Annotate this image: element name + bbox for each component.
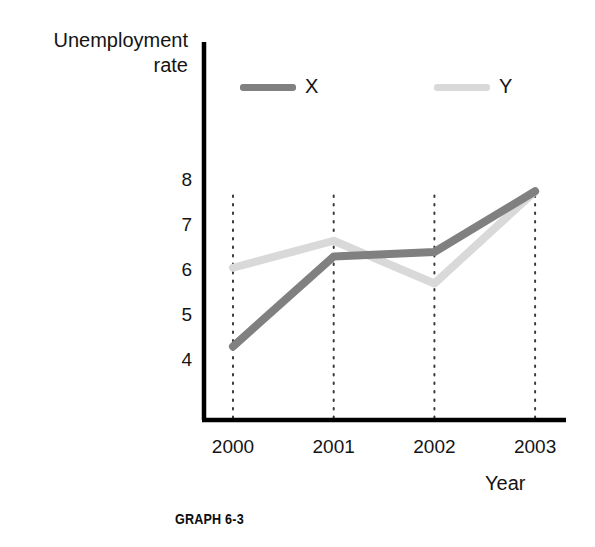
x-tick-2002: 2002: [399, 437, 469, 456]
series-line-y: [233, 191, 535, 283]
x-tick-2000: 2000: [198, 437, 268, 456]
y-tick-6: 6: [166, 260, 192, 279]
x-tick-2001: 2001: [299, 437, 369, 456]
chart-figure: Unemployment rate X Y 87654 200020012002…: [0, 0, 595, 547]
y-tick-5: 5: [166, 305, 192, 324]
figure-caption: GRAPH 6-3: [175, 511, 244, 527]
y-tick-7: 7: [166, 215, 192, 234]
y-tick-4: 4: [166, 350, 192, 369]
plot-area: [0, 0, 595, 547]
series-line-x: [233, 191, 535, 346]
y-tick-8: 8: [166, 170, 192, 189]
x-tick-2003: 2003: [500, 437, 570, 456]
x-axis-title: Year: [485, 472, 525, 495]
